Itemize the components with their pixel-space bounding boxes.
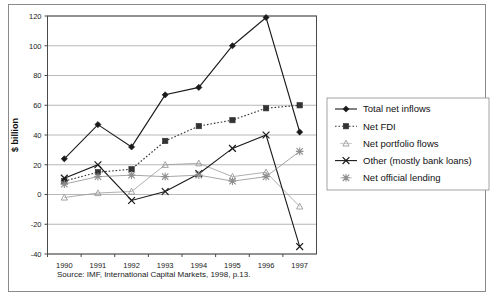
data-point [262, 173, 270, 181]
data-point [128, 144, 134, 150]
y-axis-tick-label: 60 [33, 101, 41, 110]
legend-marker [343, 124, 348, 129]
data-point [195, 171, 203, 179]
x-axis-tick-labels: 19901991199219931994199519961997 [56, 261, 308, 270]
data-point [162, 138, 167, 143]
data-point [161, 173, 169, 181]
line-chart: 120100806040200-20-40 199019911992199319… [0, 0, 496, 307]
data-point [296, 243, 303, 250]
data-point [229, 145, 236, 152]
chart-area: 120100806040200-20-40 199019911992199319… [0, 0, 496, 307]
source-note: Source: IMF, International Capital Marke… [57, 270, 250, 279]
data-point [196, 123, 201, 128]
data-point [296, 148, 304, 156]
x-axis-tick-label: 1991 [90, 261, 107, 270]
series-net-fdi [62, 103, 303, 184]
data-point [162, 188, 169, 195]
x-axis-tick-label: 1996 [258, 261, 275, 270]
y-axis-title-label: $ billion [10, 118, 20, 152]
x-axis-tick-label: 1992 [123, 261, 140, 270]
series-net-portfolio-flows [61, 160, 303, 209]
y-axis-tick-label: 100 [29, 42, 42, 51]
legend-label: Total net inflows [363, 103, 431, 114]
series-net-official-lending [61, 148, 304, 188]
y-axis-tick-label: -40 [31, 250, 42, 259]
data-point [162, 92, 168, 98]
x-axis-tick-label: 1997 [291, 261, 308, 270]
chart-legend: Total net inflowsNet FDINet portfolio fl… [327, 98, 489, 190]
series-line [64, 17, 299, 158]
series-line [64, 135, 299, 247]
figure-container: 120100806040200-20-40 199019911992199319… [0, 0, 496, 307]
y-axis-title: $ billion [10, 118, 20, 152]
data-point [297, 129, 303, 135]
x-axis-tick-label: 1990 [56, 261, 73, 270]
data-point [129, 167, 134, 172]
y-axis-tick-label: 120 [29, 12, 42, 21]
legend-label: Net official lending [363, 172, 440, 183]
legend-label: Other (mostly bank loans) [363, 155, 472, 166]
legend-marker [342, 174, 350, 182]
series-line [64, 151, 299, 184]
data-series-group [61, 14, 304, 250]
data-point [263, 106, 268, 111]
series-total-net-inflows [61, 14, 303, 162]
y-axis-tick-labels: 120100806040200-20-40 [29, 12, 42, 259]
y-axis-tick-label: 40 [33, 131, 41, 140]
data-point [229, 177, 237, 185]
data-point [230, 117, 235, 122]
x-axis-tick-label: 1993 [157, 261, 174, 270]
legend-label: Net FDI [363, 121, 396, 132]
data-point [128, 171, 136, 179]
source-note-text: Source: IMF, International Capital Marke… [57, 270, 250, 279]
x-axis-tick-label: 1994 [190, 261, 207, 270]
y-axis-tick-label: -20 [31, 220, 42, 229]
data-point [61, 180, 69, 188]
y-axis-tick-label: 0 [37, 190, 41, 199]
x-axis-tick-label: 1995 [224, 261, 241, 270]
y-axis-tick-label: 20 [33, 161, 41, 170]
data-point [128, 197, 135, 204]
legend-label: Net portfolio flows [363, 138, 439, 149]
data-point [94, 173, 102, 181]
data-point [297, 103, 302, 108]
y-axis-tick-label: 80 [33, 71, 41, 80]
